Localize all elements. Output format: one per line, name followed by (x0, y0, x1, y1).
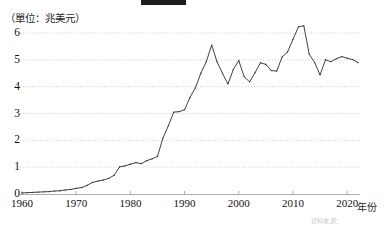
data-point-marker (287, 52, 288, 53)
data-point-marker (70, 189, 71, 190)
data-point-marker (282, 56, 283, 57)
x-axis-title: 年份 (357, 199, 377, 214)
data-point-marker (173, 112, 174, 113)
y-axis-tick-label: 5 (6, 54, 20, 66)
data-point-marker (200, 73, 201, 74)
data-point-marker (217, 61, 218, 62)
data-point-marker (320, 74, 321, 75)
data-point-marker (59, 190, 60, 191)
y-axis-labels: 0123456 (0, 0, 20, 227)
x-axis-tick-label: 2020 (336, 197, 358, 209)
data-point-marker (260, 62, 261, 63)
data-point-marker (179, 111, 180, 112)
data-point-marker (92, 182, 93, 183)
data-point-marker (119, 166, 120, 167)
data-point-marker (276, 71, 277, 72)
data-point-marker (146, 160, 147, 161)
x-axis-tick-label: 2000 (228, 197, 250, 209)
data-point-marker (152, 158, 153, 159)
data-point-marker (130, 164, 131, 165)
data-point-marker (341, 56, 342, 57)
data-point-marker (86, 185, 87, 186)
data-point-marker (65, 189, 66, 190)
data-point-marker (357, 62, 358, 63)
data-point-marker (32, 192, 33, 193)
data-point-marker (184, 109, 185, 110)
data-point-marker (292, 39, 293, 40)
data-point-marker (271, 70, 272, 71)
data-point-marker (103, 180, 104, 181)
y-axis-tick-label: 4 (6, 81, 20, 93)
x-axis-tick-label: 1970 (65, 197, 87, 209)
data-point-marker (303, 25, 304, 26)
data-point-marker (54, 191, 55, 192)
data-point-marker (195, 87, 196, 88)
data-point-marker (298, 26, 299, 27)
x-axis-tick-label: 2010 (282, 197, 304, 209)
data-point-marker (211, 45, 212, 46)
data-series-line (22, 26, 358, 193)
chart-figure: true （單位：兆美元） 0123456 196019701980199020… (0, 0, 389, 227)
data-series-markers (21, 25, 358, 193)
data-point-marker (27, 192, 28, 193)
data-point-marker (330, 61, 331, 62)
data-point-marker (325, 59, 326, 60)
data-point-marker (81, 187, 82, 188)
x-axis-labels: 1960197019801990200020102020 (0, 197, 389, 213)
x-axis-tick-label: 1960 (11, 197, 33, 209)
data-point-marker (244, 76, 245, 77)
data-point-marker (189, 97, 190, 98)
data-point-marker (97, 181, 98, 182)
data-point-marker (309, 54, 310, 55)
data-point-marker (135, 162, 136, 163)
data-point-marker (254, 72, 255, 73)
data-point-marker (124, 165, 125, 166)
data-point-marker (265, 64, 266, 65)
data-point-marker (347, 58, 348, 59)
data-point-marker (222, 73, 223, 74)
x-axis-tick-label: 1980 (119, 197, 141, 209)
data-point-marker (43, 191, 44, 192)
y-axis-tick-label: 3 (6, 108, 20, 120)
data-point-marker (336, 58, 337, 59)
data-point-marker (168, 125, 169, 126)
data-point-marker (49, 191, 50, 192)
data-point-marker (206, 61, 207, 62)
y-axis-tick-label: 1 (6, 161, 20, 173)
data-point-marker (162, 138, 163, 139)
data-point-marker (227, 83, 228, 84)
y-axis-tick-label: 2 (6, 134, 20, 146)
data-point-marker (314, 62, 315, 63)
y-axis-tick-label: 6 (6, 27, 20, 39)
data-point-marker (233, 69, 234, 70)
data-point-marker (21, 192, 22, 193)
data-point-marker (141, 163, 142, 164)
data-point-marker (157, 156, 158, 157)
data-point-marker (249, 81, 250, 82)
data-point-marker (76, 188, 77, 189)
data-point-marker (352, 59, 353, 60)
x-axis-tick-label: 1990 (174, 197, 196, 209)
source-note: 資料來源： (311, 216, 342, 225)
data-point-marker (238, 60, 239, 61)
data-point-marker (108, 178, 109, 179)
plot-area (0, 0, 389, 227)
data-point-marker (114, 175, 115, 176)
x-axis-tick-marks (22, 191, 347, 195)
data-point-marker (38, 192, 39, 193)
